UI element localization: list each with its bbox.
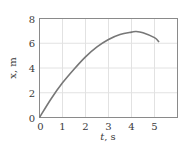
y-axis-label: x, m	[7, 57, 18, 79]
x-tick-labels: 012345	[37, 121, 157, 132]
y-tick-label: 2	[29, 88, 35, 99]
x-tick-label: 1	[59, 121, 65, 132]
y-tick-label: 0	[29, 113, 35, 124]
y-tick-label: 4	[29, 63, 35, 74]
x-tick-label: 2	[82, 121, 88, 132]
x-tick-label: 0	[37, 121, 43, 132]
data-curve	[40, 31, 160, 117]
x-axis-label: t, s	[100, 131, 116, 142]
chart: 012345 02468 t, s x, m	[0, 0, 187, 153]
y-tick-labels: 02468	[29, 14, 35, 124]
gridlines	[40, 19, 178, 118]
y-tick-label: 6	[29, 38, 35, 49]
y-tick-label: 8	[29, 14, 35, 25]
x-tick-label: 5	[151, 121, 157, 132]
x-tick-label: 4	[128, 121, 134, 132]
